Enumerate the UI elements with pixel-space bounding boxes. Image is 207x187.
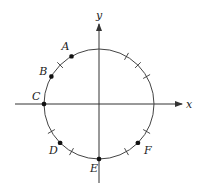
- point-label-f: F: [143, 144, 152, 157]
- points: ABCDEF: [32, 40, 152, 175]
- tick-mark: [125, 53, 129, 60]
- x-axis-label: x: [186, 98, 193, 111]
- unit-circle-diagram: x y ABCDEF: [0, 0, 207, 187]
- point-e: [97, 157, 101, 161]
- point-a: [69, 54, 73, 58]
- point-label-b: B: [38, 65, 47, 78]
- tick-mark: [125, 148, 129, 155]
- point-label-e: E: [89, 162, 98, 175]
- tick-mark: [143, 130, 150, 134]
- point-b: [49, 74, 53, 78]
- y-axis-label: y: [95, 9, 103, 22]
- point-label-a: A: [61, 40, 70, 53]
- point-c: [42, 102, 46, 106]
- tick-mark: [143, 75, 150, 79]
- tick-mark: [48, 130, 55, 134]
- tick-mark: [70, 148, 74, 155]
- point-label-c: C: [32, 90, 41, 103]
- point-label-d: D: [48, 144, 58, 157]
- point-d: [58, 141, 62, 145]
- point-f: [136, 141, 140, 145]
